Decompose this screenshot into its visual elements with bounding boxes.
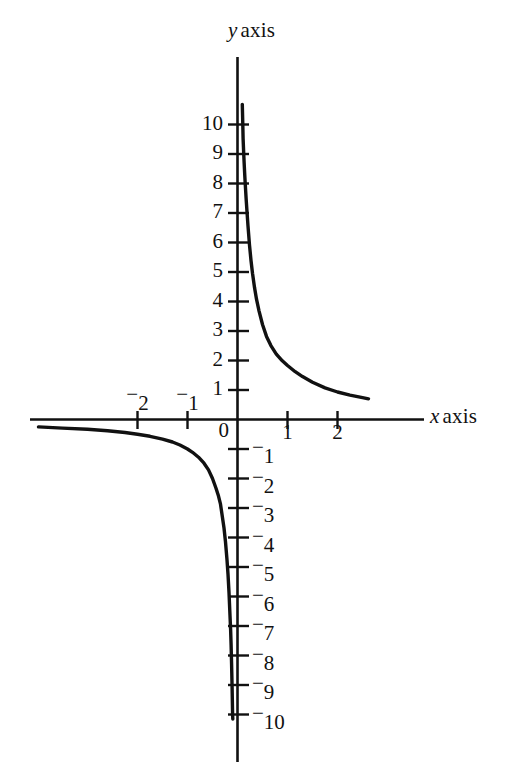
tick-label-digits: 1 <box>264 444 275 468</box>
tick-label-digits: 5 <box>264 562 275 586</box>
y-tick-label-neg-8: −8 <box>252 644 312 674</box>
y-tick-label-neg-4: −4 <box>252 526 312 556</box>
superscript-minus-sign: − <box>252 465 264 489</box>
y-tick-label-neg-3: −3 <box>252 496 312 526</box>
hyperbola-branch-positive <box>242 104 368 398</box>
y-tick-label-neg-7: −7 <box>252 614 312 644</box>
y-axis-title: yaxis <box>228 18 275 43</box>
superscript-minus-sign: − <box>252 642 264 666</box>
tick-label-digits: 8 <box>213 170 224 194</box>
y-tick-label-2: 2 <box>170 349 223 370</box>
y-tick-label-8: 8 <box>170 172 223 193</box>
tick-label-digits: 6 <box>264 591 275 615</box>
y-axis-title-variable: y <box>228 18 241 42</box>
y-tick-label-9: 9 <box>170 142 223 163</box>
superscript-minus-sign: − <box>252 701 264 725</box>
y-tick-label-5: 5 <box>170 260 223 281</box>
tick-label-digits: 2 <box>138 390 149 414</box>
y-tick-label-neg-5: −5 <box>252 555 312 585</box>
x-tick-label-1: 1 <box>263 422 313 443</box>
tick-label-digits: 3 <box>213 317 224 341</box>
y-tick-label-6: 6 <box>170 231 223 252</box>
y-axis-title-word: axis <box>241 18 276 42</box>
x-axis-title-word: axis <box>443 404 478 428</box>
tick-label-digits: 2 <box>213 347 224 371</box>
y-tick-label-7: 7 <box>170 201 223 222</box>
y-tick-label-10: 10 <box>170 113 223 134</box>
tick-label-digits: 1 <box>213 376 224 400</box>
x-tick-label-neg-1: −1 <box>163 384 213 414</box>
tick-label-digits: 5 <box>213 258 224 282</box>
tick-label-digits: 7 <box>264 621 275 645</box>
tick-label-digits: 7 <box>213 199 224 223</box>
superscript-minus-sign: − <box>252 671 264 695</box>
tick-label-digits: 10 <box>264 709 285 733</box>
superscript-minus-sign: − <box>252 553 264 577</box>
tick-label-digits: 4 <box>213 288 224 312</box>
tick-label-digits: 9 <box>264 680 275 704</box>
superscript-minus-sign: − <box>176 382 188 406</box>
superscript-minus-sign: − <box>126 382 138 406</box>
y-tick-label-3: 3 <box>170 319 223 340</box>
y-tick-label-neg-2: −2 <box>252 467 312 497</box>
tick-label-digits: 6 <box>213 229 224 253</box>
tick-label-digits: 8 <box>264 650 275 674</box>
tick-label-digits: 4 <box>264 532 275 556</box>
hyperbola-figure: yaxis xaxis 0 10987654321−1−2−3−4−5−6−7−… <box>0 0 519 777</box>
tick-label-digits: 9 <box>213 140 224 164</box>
y-tick-label-neg-6: −6 <box>252 585 312 615</box>
tick-label-digits: 10 <box>202 111 223 135</box>
y-tick-label-neg-9: −9 <box>252 673 312 703</box>
y-tick-label-4: 4 <box>170 290 223 311</box>
superscript-minus-sign: − <box>252 524 264 548</box>
tick-label-digits: 1 <box>188 390 199 414</box>
origin-label: 0 <box>205 420 229 441</box>
x-axis-title: xaxis <box>430 404 477 429</box>
superscript-minus-sign: − <box>252 494 264 518</box>
x-axis-title-variable: x <box>430 404 443 428</box>
superscript-minus-sign: − <box>252 612 264 636</box>
hyperbola-branch-negative <box>39 427 233 719</box>
tick-label-digits: 1 <box>282 420 293 444</box>
x-tick-label-neg-2: −2 <box>113 384 163 414</box>
tick-label-digits: 3 <box>264 503 275 527</box>
y-tick-label-neg-10: −10 <box>252 703 312 733</box>
superscript-minus-sign: − <box>252 583 264 607</box>
x-tick-label-2: 2 <box>313 422 363 443</box>
tick-label-digits: 2 <box>332 420 343 444</box>
tick-label-digits: 2 <box>264 473 275 497</box>
